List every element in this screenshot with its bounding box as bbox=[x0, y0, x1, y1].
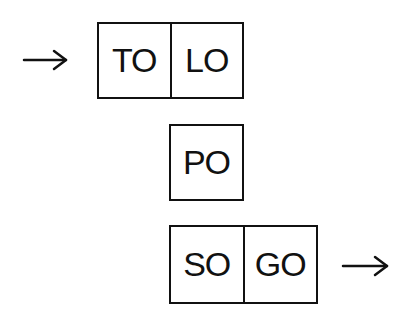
cell-so: SO bbox=[171, 227, 243, 302]
cell-po: PO bbox=[171, 126, 242, 199]
word-block-row-3: SO GO bbox=[169, 225, 318, 304]
output-arrow-icon bbox=[341, 254, 391, 278]
cell-lo: LO bbox=[170, 24, 243, 97]
word-block-row-2: PO bbox=[169, 124, 244, 201]
input-arrow-icon bbox=[22, 48, 70, 72]
cell-to: TO bbox=[99, 24, 170, 97]
word-block-row-1: TO LO bbox=[97, 22, 244, 99]
cell-go: GO bbox=[243, 227, 317, 302]
